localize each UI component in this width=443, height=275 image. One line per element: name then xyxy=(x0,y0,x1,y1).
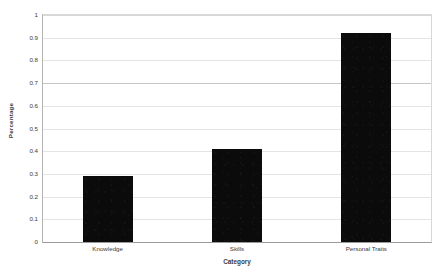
y-axis-tick-label: 0.8 xyxy=(18,56,38,63)
y-axis-tick-label: 0.1 xyxy=(18,215,38,222)
y-axis-tick-label: 0.7 xyxy=(18,79,38,86)
bar xyxy=(341,33,391,242)
y-axis-title: Percentage xyxy=(4,0,18,241)
y-axis-tick-labels: 10.90.80.70.60.50.40.30.20.10 xyxy=(18,14,38,241)
x-axis-tick-label: Knowledge xyxy=(92,244,123,253)
y-axis-tick-label: 0 xyxy=(18,238,38,245)
bar-chart: Percentage 10.90.80.70.60.50.40.30.20.10… xyxy=(0,0,443,275)
y-axis-tick-label: 0.5 xyxy=(18,124,38,131)
x-axis-tick-labels: KnowledgeSkillsPersonal Traits xyxy=(42,244,432,256)
y-axis-title-text: Percentage xyxy=(8,103,15,138)
y-axis-tick-label: 0.6 xyxy=(18,101,38,108)
y-axis-tick-label: 0.2 xyxy=(18,192,38,199)
y-axis-tick-label: 1 xyxy=(18,11,38,18)
y-axis-tick-label: 0.9 xyxy=(18,33,38,40)
plot-area xyxy=(42,14,432,243)
x-axis-tick-label: Skills xyxy=(230,244,244,253)
bars-group xyxy=(43,15,431,242)
bar xyxy=(212,149,262,242)
x-axis-tick-label: Personal Traits xyxy=(346,244,387,253)
y-axis-tick-label: 0.3 xyxy=(18,169,38,176)
y-axis-tick-label: 0.4 xyxy=(18,147,38,154)
x-axis-title: Category xyxy=(42,258,432,265)
bar xyxy=(83,176,133,242)
